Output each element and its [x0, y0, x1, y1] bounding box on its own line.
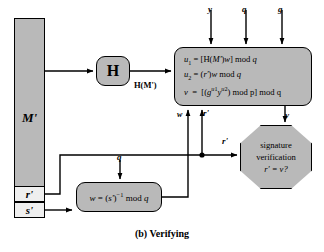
label-y: y [208, 4, 212, 14]
hash-output-label: H(M') [134, 80, 157, 90]
signature-part-s-prime: s' [14, 202, 45, 218]
label-v: v [285, 110, 289, 120]
wire-w-to-compute [162, 110, 188, 197]
verification-line-3: r' = v? [264, 163, 287, 175]
label-r-prime-up: r' [203, 108, 209, 118]
junction-dot [199, 152, 204, 157]
signature-part-r-prime: r' [14, 186, 45, 202]
label-r-prime-to-verification: r' [222, 136, 228, 146]
verification-line-1: signature [260, 139, 292, 151]
equation-v: v = [(gu1yu2) mod p] mod q [184, 83, 281, 99]
hash-function-box: H [96, 56, 130, 86]
dsa-verifying-diagram: M' r' s' H H(M') u1 = [H(M')w] mod q u2 … [0, 0, 324, 252]
compute-equations: u1 = [H(M')w] mod q u2 = (r')w mod q v =… [184, 54, 281, 99]
label-g: g [278, 4, 283, 14]
w-equation: w = (s')−1 mod q [90, 191, 149, 203]
label-q-into-w: q [117, 152, 122, 162]
w-compute-box: w = (s')−1 mod q [76, 182, 162, 212]
r-prime-label: r' [26, 188, 33, 200]
hash-label: H [107, 62, 119, 80]
signature-verification-box: signature verification r' = v? [240, 125, 312, 189]
label-q-top: q [242, 4, 247, 14]
label-w: w [177, 110, 182, 119]
compute-box: u1 = [H(M')w] mod q u2 = (r')w mod q v =… [174, 47, 312, 106]
verification-line-2: verification [256, 151, 296, 163]
message-label: M' [22, 110, 37, 126]
equation-u2: u2 = (r')w mod q [184, 69, 281, 84]
equation-u1: u1 = [H(M')w] mod q [184, 54, 281, 69]
s-prime-label: s' [26, 204, 33, 216]
figure-caption: (b) Verifying [0, 228, 324, 239]
